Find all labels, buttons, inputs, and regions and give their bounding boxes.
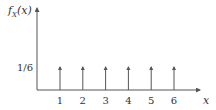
stem-arrow-icon — [149, 66, 153, 70]
stem-arrow-icon — [104, 66, 108, 70]
x-tick-label: 6 — [171, 95, 177, 106]
x-tick-labels: 123456 — [57, 95, 177, 106]
stem-arrow-icon — [126, 66, 130, 70]
y-tick-label: 1/6 — [17, 62, 33, 73]
x-tick-label: 3 — [102, 95, 108, 106]
stem-arrow-icon — [172, 66, 176, 70]
x-tick-label: 4 — [125, 95, 131, 106]
stem-arrow-icon — [58, 66, 62, 70]
pmf-stem-chart: fX(x) 1/6 123456 x — [0, 0, 216, 110]
stems-group — [58, 66, 176, 90]
x-tick-label: 5 — [148, 95, 154, 106]
x-axis-label: x — [203, 94, 210, 107]
y-axis-label: fX(x) — [7, 4, 32, 19]
x-tick-label: 1 — [57, 95, 63, 106]
x-tick-label: 2 — [80, 95, 86, 106]
stem-arrow-icon — [81, 66, 85, 70]
